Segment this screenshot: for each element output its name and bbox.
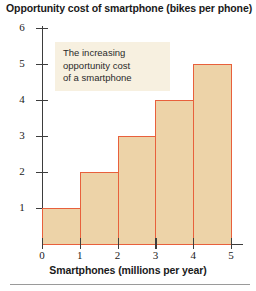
x-axis-label-4: 4 (185, 250, 201, 261)
y-axis-label-1: 1 (14, 202, 30, 213)
y-axis-tick-4 (36, 100, 48, 101)
x-axis-tick-3 (155, 238, 156, 249)
x-axis-tick-2 (118, 238, 119, 249)
y-axis-label-4: 4 (14, 94, 30, 105)
bar-2 (80, 172, 119, 245)
x-axis-label-1: 1 (72, 250, 88, 261)
x-axis-label-0: 0 (34, 250, 50, 261)
annotation-callout: The increasing opportunity cost of a sma… (55, 42, 170, 91)
x-axis-title: Smartphones (millions per year) (0, 264, 256, 276)
y-axis-label-2: 2 (14, 166, 30, 177)
annotation-line-3: of a smartphone (63, 72, 163, 85)
x-axis-tick-0 (42, 238, 43, 249)
y-axis-label-3: 3 (14, 130, 30, 141)
y-axis-label-5: 5 (14, 58, 30, 69)
x-axis-tick-4 (193, 238, 194, 249)
bar-chart-plot-area: 6 5 4 3 2 1 0 1 2 3 4 5 The increasing o… (0, 0, 256, 291)
bottom-divider (10, 284, 250, 285)
y-axis-tick-2 (36, 172, 48, 173)
y-axis-tick-3 (36, 136, 48, 137)
y-axis-tick-5 (36, 64, 48, 65)
y-axis-tick-6 (36, 28, 48, 29)
x-axis-tick-1 (80, 238, 81, 249)
x-axis-label-5: 5 (223, 250, 239, 261)
y-axis-label-6: 6 (14, 22, 30, 33)
x-axis-tick-5 (231, 238, 232, 249)
x-axis-label-3: 3 (147, 250, 163, 261)
annotation-line-1: The increasing (63, 47, 163, 60)
bar-4 (155, 100, 194, 245)
bar-3 (118, 136, 157, 245)
x-axis-label-2: 2 (110, 250, 126, 261)
annotation-line-2: opportunity cost (63, 60, 163, 73)
bar-5 (193, 64, 232, 245)
bar-1 (42, 208, 81, 245)
